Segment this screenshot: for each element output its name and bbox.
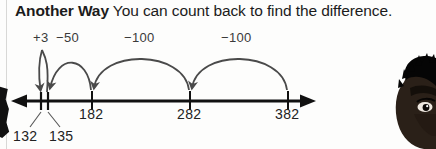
number-line-right-arrowhead [300, 95, 316, 108]
number-line-left-arrowhead [11, 95, 27, 108]
callout-leader-132 [30, 112, 41, 127]
worksheet-page: Another Way You can count back to find t… [0, 0, 436, 149]
tick-label-182: 182 [79, 106, 104, 122]
student-portrait-photo [384, 52, 436, 149]
tick-label-282: 282 [177, 106, 202, 122]
jump-arc-minus-100-second [192, 59, 287, 90]
jump-arc-plus-3 [39, 50, 42, 90]
jump-arc-minus-50 [50, 63, 91, 90]
callout-label-132: 132 [13, 128, 38, 144]
tick-label-382: 382 [275, 106, 300, 122]
number-line-diagram [0, 0, 436, 149]
callout-label-135: 135 [49, 128, 74, 144]
portrait-eye-highlight [426, 105, 428, 107]
callout-leader-135 [48, 112, 60, 127]
jump-arc-minus-100-first [94, 59, 189, 90]
jump-arc-plus-3-rise [42, 50, 48, 92]
student-portrait-graphic [384, 52, 436, 149]
portrait-iris [423, 104, 430, 111]
